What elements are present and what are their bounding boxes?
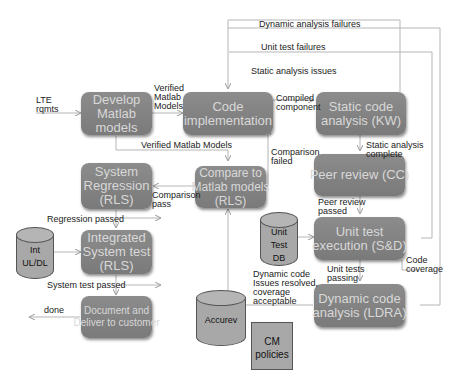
comparison-pass-label: Comparison pass [152, 191, 201, 209]
box-label: Integrated System test (RLS) [83, 231, 151, 273]
box-label: Unit test execution (S&D) [312, 225, 407, 253]
box-label: Peer review (CC) [310, 168, 410, 182]
unit-tests-passing-label: Unit tests passing [327, 265, 365, 283]
accurev-database-icon: Accurev [196, 290, 246, 346]
static-analysis-issues-label: Static analysis issues [251, 67, 337, 76]
dynamic-resolved-label: Dynamic code Issues resolved, coverage a… [253, 270, 318, 306]
cm-policies-scroll-icon: CM policies [251, 322, 293, 370]
box-label: Code implementation [184, 100, 272, 128]
system-regression-box[interactable]: System Regression (RLS) [81, 163, 152, 209]
box-label: System Regression (RLS) [84, 165, 150, 207]
peer-review-passed-label: Peer review passed [318, 198, 366, 216]
box-label: Compare to Matlab models (RLS) [191, 166, 269, 208]
box-label: Static code analysis (KW) [321, 100, 401, 128]
system-test-passed-label: System test passed [47, 281, 126, 290]
lte-rqmts-label: LTE rqmts [36, 96, 59, 114]
dynamic-code-analysis-box[interactable]: Dynamic code analysis (LDRA) [314, 284, 405, 327]
box-label: Document and Deliver to customer [73, 305, 159, 329]
develop-matlab-models-box[interactable]: Develop Matlab models [81, 92, 152, 135]
integrated-system-test-box[interactable]: Integrated System test (RLS) [81, 230, 152, 274]
unit-test-db-database-icon: Unit Test DB [260, 212, 298, 266]
static-analysis-complete-label: Static analysis complete [366, 141, 424, 159]
compare-to-matlab-box[interactable]: Compare to Matlab models (RLS) [195, 166, 266, 208]
static-code-analysis-box[interactable]: Static code analysis (KW) [316, 92, 406, 135]
code-implementation-box[interactable]: Code implementation [183, 92, 273, 135]
compiled-component-label: Compiled component [276, 94, 321, 112]
verified-models-label-2: Verified Matlab Models [141, 141, 232, 150]
unit-test-execution-box[interactable]: Unit test execution (S&D) [314, 217, 405, 260]
done-label: done [44, 306, 64, 315]
dynamic-analysis-failures-label: Dynamic analysis failures [259, 20, 361, 29]
code-coverage-label: Code coverage [406, 256, 443, 274]
regression-passed-label: Regression passed [47, 215, 124, 224]
unit-test-failures-label: Unit test failures [261, 43, 326, 52]
peer-review-box[interactable]: Peer review (CC) [314, 154, 405, 196]
comparison-failed-label: Comparison failed [271, 148, 320, 166]
box-label: Dynamic code analysis (LDRA) [313, 292, 407, 320]
verified-models-label: Verified Matlab Models [154, 84, 184, 111]
document-deliver-box[interactable]: Document and Deliver to customer [81, 296, 152, 338]
int-uldl-database-icon: Int UL/DL [16, 227, 54, 279]
box-label: Develop Matlab models [93, 93, 141, 135]
